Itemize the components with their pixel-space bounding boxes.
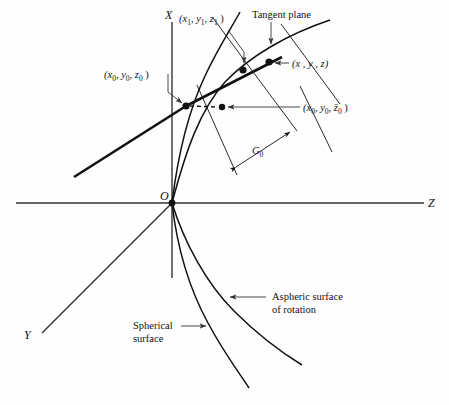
tangent-plane-lines xyxy=(197,18,340,175)
origin-label: O xyxy=(160,189,169,203)
tangent-plane-line-left xyxy=(213,18,297,131)
label-aspheric-surface-line1: Aspheric surface xyxy=(272,291,343,302)
leader-x1y1z1 xyxy=(228,30,244,63)
label-spherical-surface-line1: Spherical xyxy=(133,320,173,331)
point-x0y0z0-marker xyxy=(182,102,189,109)
point-x0y0zbar0-marker xyxy=(219,104,225,110)
gap-boundary-line-right xyxy=(300,86,332,152)
diagram-svg: X Y Z O (x1, y1, z1 ) (x0, y0, z0 ) Tang… xyxy=(0,0,449,405)
leader-x0y0z0 xyxy=(168,74,182,103)
label-aspheric-surface-line2: of rotation xyxy=(272,304,317,315)
label-gap-g0: G0 xyxy=(252,145,264,159)
y-axis-line xyxy=(42,203,172,333)
label-x0y0z0-mid1: , y xyxy=(116,69,126,80)
label-x1y1z1-close: ) xyxy=(218,13,225,25)
point-x1y1z1-marker xyxy=(239,66,246,73)
label-spherical-surface-line2: surface xyxy=(133,333,164,344)
point-xyz-marker xyxy=(265,58,272,65)
aspheric-lower-branch xyxy=(172,203,302,365)
axis-group xyxy=(16,22,424,333)
point-markers xyxy=(169,58,273,206)
dashed-connector xyxy=(190,106,216,107)
label-g0-sub1: 0 xyxy=(260,150,264,159)
label-x0y0z0-close: ) xyxy=(143,69,150,81)
label-point-x0y0z0: (x0, y0, z0 ) xyxy=(104,69,149,83)
origin-marker xyxy=(169,200,176,207)
label-x0y0zbar0-mid1: , y xyxy=(315,102,325,113)
y-axis-label: Y xyxy=(24,328,32,342)
label-x1y1z1-mid1: , y xyxy=(191,13,201,24)
label-point-xyz: (x , y , z) xyxy=(292,58,329,70)
label-x0y0zbar0-close: ) xyxy=(342,102,349,114)
spherical-lower-branch xyxy=(172,203,249,388)
spherical-surface-curve xyxy=(172,12,249,388)
figure-canvas: X Y Z O (x1, y1, z1 ) (x0, y0, z0 ) Tang… xyxy=(0,0,449,405)
z-axis-label: Z xyxy=(428,196,435,210)
gap-boundary-line-left xyxy=(197,85,237,175)
leader-lines xyxy=(168,22,300,326)
label-tangent-plane: Tangent plane xyxy=(252,9,311,20)
label-x0y0zbar0-mid2: , z̄ xyxy=(329,102,339,113)
label-x0y0z0-mid2: , z xyxy=(130,69,139,80)
label-x1y1z1-mid2: , z xyxy=(205,13,214,24)
label-point-x0y0zbar0: (x0, y0, z̄0 ) xyxy=(303,102,348,116)
ray-direction-arrow xyxy=(110,143,126,153)
label-point-x1y1z1: (x1, y1, z1 ) xyxy=(179,13,224,27)
x-axis-label: X xyxy=(164,8,173,22)
incident-ray-segment xyxy=(74,106,186,177)
